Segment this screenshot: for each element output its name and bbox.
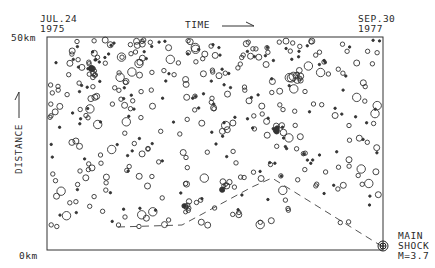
event-marker [363, 99, 367, 103]
event-marker [150, 103, 156, 109]
event-marker [150, 174, 154, 178]
event-marker [198, 219, 204, 225]
event-marker [346, 157, 352, 163]
event-marker [218, 46, 220, 48]
event-marker [161, 97, 163, 99]
event-marker [353, 93, 361, 101]
event-marker [69, 139, 75, 145]
event-marker [55, 62, 57, 64]
event-marker [373, 169, 379, 175]
event-marker [347, 138, 351, 142]
event-marker [259, 170, 261, 172]
event-marker [127, 164, 131, 168]
event-marker [187, 53, 189, 55]
event-marker [95, 59, 97, 61]
event-marker [205, 150, 209, 154]
event-marker [65, 92, 69, 96]
event-marker [234, 161, 238, 165]
event-marker [348, 46, 350, 48]
event-marker [116, 143, 118, 145]
event-marker [314, 53, 318, 57]
event-marker [323, 170, 327, 174]
event-marker [78, 169, 82, 173]
event-marker [128, 68, 136, 76]
event-marker [336, 165, 340, 169]
event-marker [345, 75, 347, 77]
event-marker [365, 122, 367, 124]
event-marker [336, 151, 338, 153]
event-marker [272, 59, 274, 61]
event-marker [113, 86, 117, 90]
event-marker [83, 175, 89, 181]
event-marker [285, 47, 287, 49]
event-marker [122, 208, 124, 210]
event-marker [232, 185, 236, 189]
event-marker [133, 50, 137, 54]
event-marker [113, 42, 115, 44]
event-marker [277, 88, 283, 94]
event-marker [324, 61, 326, 63]
event-marker [139, 89, 143, 93]
event-marker [323, 192, 325, 194]
event-marker [340, 42, 344, 46]
event-marker [75, 211, 77, 213]
event-marker [117, 88, 121, 92]
event-marker [341, 71, 345, 75]
event-marker [280, 175, 282, 177]
event-marker [318, 63, 320, 65]
event-marker [80, 84, 82, 86]
event-marker [123, 80, 127, 84]
event-marker [92, 194, 96, 198]
event-marker [59, 214, 61, 216]
event-marker [131, 150, 133, 152]
event-marker [356, 173, 360, 177]
event-marker [230, 120, 236, 126]
event-marker [98, 153, 102, 157]
event-marker [123, 97, 125, 99]
event-marker [51, 156, 53, 158]
event-marker [74, 200, 78, 204]
event-marker [72, 58, 74, 60]
event-marker [219, 54, 221, 56]
event-marker [264, 55, 266, 57]
event-marker [103, 174, 109, 180]
event-marker [123, 87, 125, 89]
event-marker [374, 145, 380, 151]
event-marker [251, 170, 255, 174]
event-marker [91, 85, 95, 89]
event-marker [88, 204, 92, 208]
event-marker [158, 41, 160, 43]
event-marker [154, 209, 156, 211]
event-marker [79, 123, 81, 125]
event-marker [251, 47, 255, 51]
time-arrow-icon [222, 22, 254, 26]
event-marker [164, 40, 166, 42]
event-marker [336, 187, 340, 191]
event-marker [231, 149, 235, 153]
event-marker [107, 53, 109, 55]
event-marker [77, 143, 83, 149]
event-marker [192, 97, 194, 99]
event-marker [122, 118, 130, 126]
event-marker [281, 107, 285, 111]
main-shock-marker [378, 241, 388, 251]
event-marker [62, 212, 70, 220]
event-marker [246, 50, 248, 52]
event-marker [248, 53, 254, 59]
event-marker [250, 96, 252, 98]
event-marker [212, 107, 216, 111]
event-marker [49, 223, 53, 227]
event-marker [149, 88, 153, 92]
event-marker [199, 120, 205, 126]
event-marker [104, 181, 108, 185]
event-marker [284, 145, 286, 147]
event-marker [79, 118, 81, 120]
event-marker [200, 71, 206, 77]
event-marker [280, 129, 287, 136]
event-marker [110, 102, 114, 106]
event-marker [267, 198, 269, 200]
event-marker [87, 107, 89, 109]
event-marker [103, 61, 107, 65]
event-marker [52, 109, 58, 115]
event-marker [91, 51, 93, 53]
